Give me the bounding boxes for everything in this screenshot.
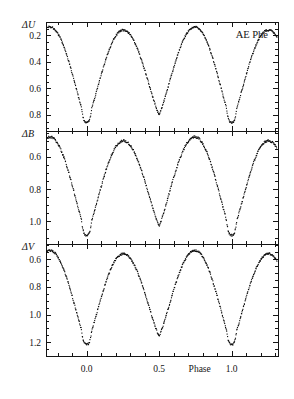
data-point (117, 145, 118, 146)
data-point (80, 327, 81, 328)
data-point (111, 267, 112, 268)
data-point (229, 233, 230, 234)
data-point (178, 274, 179, 275)
y-ticklabel-V: 0.6 (29, 255, 41, 265)
data-point (222, 94, 223, 95)
data-point (173, 289, 174, 290)
data-point (82, 114, 83, 115)
data-point (87, 343, 88, 344)
data-point (137, 160, 138, 161)
data-point (138, 273, 139, 274)
data-point (188, 140, 189, 141)
data-point (133, 149, 134, 150)
data-point (215, 66, 216, 67)
data-point (195, 137, 196, 138)
data-point (235, 116, 236, 117)
data-point (225, 328, 226, 329)
data-point (111, 44, 112, 45)
data-point (72, 185, 73, 186)
data-point (95, 207, 96, 208)
data-point (99, 82, 100, 83)
data-point (81, 106, 82, 107)
data-point (127, 254, 128, 255)
data-point (171, 185, 172, 186)
data-point (254, 159, 255, 160)
data-point (168, 307, 169, 308)
data-point (72, 298, 73, 299)
data-point (208, 155, 209, 156)
data-point (102, 294, 103, 295)
data-point (149, 307, 150, 308)
data-point (164, 98, 165, 99)
data-point (146, 75, 147, 76)
data-point (182, 41, 183, 42)
data-point (65, 275, 66, 276)
data-point (243, 85, 244, 86)
data-point (134, 42, 135, 43)
data-point (104, 176, 105, 177)
data-point (179, 159, 180, 160)
data-point (151, 202, 152, 203)
data-point (234, 341, 235, 342)
data-point (60, 148, 61, 149)
data-point (74, 303, 75, 304)
data-point (148, 84, 149, 85)
data-point (51, 138, 52, 139)
data-point (169, 304, 170, 305)
data-point (259, 262, 260, 263)
data-point (148, 194, 149, 195)
data-point (244, 81, 245, 82)
y-ticklabel-U: 0.2 (29, 31, 41, 41)
data-point (182, 151, 183, 152)
data-point (62, 265, 63, 266)
data-point (238, 324, 239, 325)
data-point (247, 292, 248, 293)
data-points-U (47, 26, 278, 124)
data-point (248, 68, 249, 69)
data-point (125, 30, 126, 31)
data-point (105, 172, 106, 173)
data-point (92, 327, 93, 328)
data-point (66, 166, 67, 167)
data-point (256, 45, 257, 46)
y-ticklabel-B: 1.0 (29, 217, 41, 227)
data-point (203, 146, 204, 147)
data-point (234, 342, 235, 343)
data-point (204, 260, 205, 261)
data-point (226, 108, 227, 109)
data-point (248, 177, 249, 178)
data-point (149, 197, 150, 198)
data-point (70, 291, 71, 292)
data-point (247, 183, 248, 184)
y-ticklabel-V: 1.2 (29, 338, 41, 348)
data-point (103, 291, 104, 292)
data-point (79, 321, 80, 322)
data-point (107, 276, 108, 277)
data-point (144, 179, 145, 180)
data-point (162, 216, 163, 217)
data-point (233, 235, 234, 236)
data-point (221, 202, 222, 203)
data-point (204, 35, 205, 36)
data-point (102, 183, 103, 184)
data-point (227, 336, 228, 337)
data-point (156, 219, 157, 220)
data-point (139, 276, 140, 277)
data-point (170, 302, 171, 303)
data-point (181, 156, 182, 157)
data-point (164, 320, 165, 321)
data-point (150, 89, 151, 90)
data-point (105, 284, 106, 285)
data-point (237, 105, 238, 106)
data-point (101, 296, 102, 297)
data-point (219, 81, 220, 82)
y-axis-label-B: ΔB (21, 128, 34, 139)
data-point (77, 203, 78, 204)
data-point (139, 165, 140, 166)
data-point (151, 93, 152, 94)
data-point (154, 326, 155, 327)
data-point (253, 51, 254, 52)
data-point (205, 149, 206, 150)
data-point (223, 209, 224, 210)
data-point (211, 164, 212, 165)
